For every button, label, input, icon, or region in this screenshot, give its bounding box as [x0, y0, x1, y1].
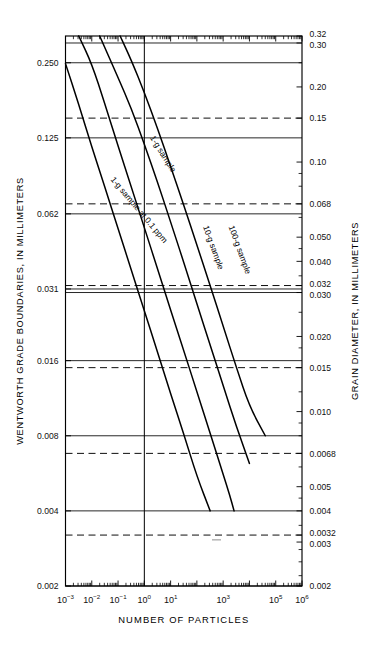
- x-tick-label-1: 100: [138, 593, 152, 605]
- right-tick-label-0.050: 0.050: [310, 232, 332, 242]
- curve-10-g-sample: [100, 36, 250, 463]
- left-tick-label-0.031: 0.031: [37, 284, 59, 294]
- scan-artifact: [212, 539, 221, 541]
- right-tick-label-0.068: 0.068: [310, 199, 332, 209]
- right-tick-label-0.32: 0.32: [310, 29, 327, 39]
- right-tick-label-0.005: 0.005: [310, 482, 332, 492]
- curve-label-10-g-sample: 10-g sample: [201, 224, 226, 271]
- right-tick-label-0.30: 0.30: [310, 40, 327, 50]
- right-tick-label-0.030: 0.030: [310, 290, 332, 300]
- right-tick-label-0.15: 0.15: [310, 113, 327, 123]
- right-axis-title: GRAIN DIAMETER, IN MILLIMETERS: [350, 222, 360, 400]
- figure-container: 1-g sample at 0.1 ppm1-g sample10-g samp…: [0, 0, 375, 654]
- left-tick-label-0.002: 0.002: [37, 581, 59, 591]
- left-tick-label-0.008: 0.008: [37, 431, 59, 441]
- x-tick-label-10: 101: [164, 593, 178, 605]
- right-tick-label-0.0032: 0.0032: [310, 528, 337, 538]
- right-tick-label-0.003: 0.003: [310, 539, 332, 549]
- right-tick-label-0.010: 0.010: [310, 407, 332, 417]
- right-tick-label-0.020: 0.020: [310, 332, 332, 342]
- right-tick-label-0.032: 0.032: [310, 279, 332, 289]
- right-tick-label-0.002: 0.002: [310, 581, 332, 591]
- x-tick-label-0.1: 10−1: [110, 593, 128, 605]
- left-axis-title: WENTWORTH GRADE BOUNDARIES, IN MILLIMETE…: [15, 177, 25, 445]
- x-axis-title: NUMBER OF PARTICLES: [118, 614, 249, 625]
- right-tick-label-0.0068: 0.0068: [310, 449, 337, 459]
- right-tick-label-0.20: 0.20: [310, 82, 327, 92]
- left-tick-label-0.125: 0.125: [37, 133, 59, 143]
- right-tick-label-0.015: 0.015: [310, 363, 332, 373]
- right-tick-label-0.10: 0.10: [310, 157, 327, 167]
- x-tick-label-1000: 103: [216, 593, 230, 605]
- left-tick-label-0.062: 0.062: [37, 209, 59, 219]
- x-tick-label-100000: 105: [269, 593, 283, 605]
- left-tick-label-0.250: 0.250: [37, 58, 59, 68]
- x-tick-label-0.001: 10−3: [57, 593, 75, 605]
- curve-100-g-sample: [120, 36, 265, 436]
- x-tick-label-1000000: 106: [295, 593, 309, 605]
- right-tick-label-0.040: 0.040: [310, 257, 332, 267]
- right-tick-label-0.004: 0.004: [310, 506, 332, 516]
- grain-size-chart: 1-g sample at 0.1 ppm1-g sample10-g samp…: [0, 0, 375, 654]
- x-tick-label-0.01: 10−2: [83, 593, 101, 605]
- curve-label-1-g-sample-at-0-1-ppm: 1-g sample at 0.1 ppm: [109, 175, 170, 245]
- left-tick-label-0.004: 0.004: [37, 506, 59, 516]
- left-tick-label-0.016: 0.016: [37, 356, 59, 366]
- curve-label-100-g-sample: 100-g sample: [227, 224, 254, 275]
- curve-1-g-sample-at-0-1-ppm: [66, 64, 211, 511]
- curve-1-g-sample: [79, 36, 234, 511]
